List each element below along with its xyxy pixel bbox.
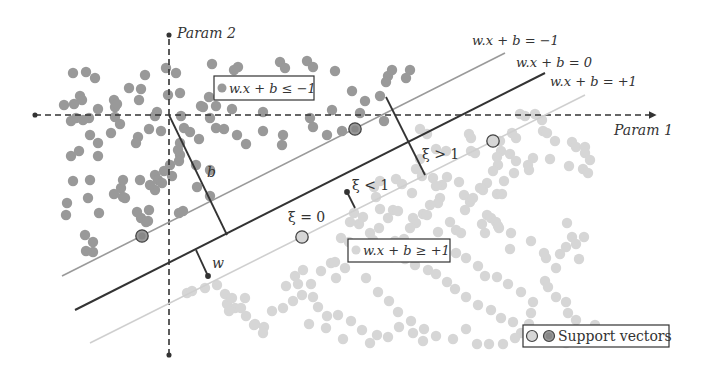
data-point bbox=[143, 216, 153, 226]
slack-gt1-label: ξ > 1 bbox=[422, 146, 459, 162]
data-point bbox=[473, 261, 483, 271]
data-point bbox=[372, 330, 382, 340]
data-point bbox=[150, 111, 160, 121]
data-point bbox=[494, 223, 504, 233]
data-point bbox=[431, 331, 441, 341]
data-point bbox=[308, 292, 318, 302]
data-point bbox=[250, 319, 260, 329]
data-point bbox=[278, 303, 288, 313]
data-point bbox=[486, 305, 496, 315]
data-point bbox=[81, 246, 91, 256]
data-point bbox=[75, 91, 85, 101]
data-point bbox=[475, 183, 485, 193]
data-point bbox=[227, 293, 237, 303]
data-point bbox=[118, 192, 128, 202]
data-point bbox=[78, 115, 88, 125]
data-point bbox=[373, 287, 383, 297]
data-point bbox=[331, 273, 341, 283]
data-point bbox=[306, 279, 316, 289]
legend-label: Support vectors bbox=[558, 328, 672, 344]
data-point bbox=[448, 334, 458, 344]
data-point bbox=[93, 151, 103, 161]
positive-class-box: w.x + b ≥ +1 bbox=[348, 239, 450, 262]
data-point bbox=[442, 277, 452, 287]
data-point bbox=[322, 130, 332, 140]
data-point bbox=[140, 70, 150, 80]
negative-class-label: w.x + b ≤ −1 bbox=[229, 81, 316, 96]
data-point bbox=[387, 65, 397, 75]
data-point bbox=[333, 310, 343, 320]
data-point bbox=[229, 65, 239, 75]
data-point bbox=[118, 175, 128, 185]
data-point bbox=[267, 306, 277, 316]
data-point bbox=[551, 292, 561, 302]
weight-normal-vector bbox=[196, 250, 208, 276]
data-point bbox=[224, 306, 234, 316]
data-point bbox=[330, 257, 340, 267]
data-point bbox=[316, 266, 326, 276]
data-point bbox=[62, 198, 72, 208]
data-point bbox=[330, 66, 340, 76]
data-point bbox=[508, 317, 518, 327]
data-point bbox=[541, 253, 551, 263]
data-point bbox=[308, 122, 318, 132]
slack-eq0-label: ξ = 0 bbox=[288, 209, 325, 225]
data-point bbox=[461, 253, 471, 263]
data-point bbox=[528, 297, 538, 307]
data-point bbox=[165, 160, 175, 170]
data-point bbox=[466, 133, 476, 143]
data-point bbox=[383, 213, 393, 223]
data-point bbox=[461, 324, 471, 334]
data-point bbox=[418, 336, 428, 346]
data-point bbox=[74, 146, 84, 156]
data-point bbox=[106, 128, 116, 138]
data-point bbox=[280, 63, 290, 73]
data-point bbox=[258, 126, 268, 136]
data-point bbox=[524, 165, 534, 175]
negative-class-box: w.x + b ≤ −1 bbox=[214, 76, 316, 100]
data-point bbox=[175, 88, 185, 98]
data-point bbox=[241, 139, 251, 149]
data-point bbox=[419, 324, 429, 334]
data-point bbox=[461, 292, 471, 302]
data-point bbox=[442, 172, 452, 182]
data-point bbox=[360, 96, 370, 106]
data-point bbox=[308, 62, 318, 72]
data-point bbox=[144, 205, 154, 215]
data-point bbox=[473, 300, 483, 310]
weight-label: w bbox=[212, 255, 224, 271]
data-point bbox=[136, 84, 146, 94]
data-point bbox=[563, 308, 573, 318]
data-point bbox=[393, 206, 403, 216]
data-point bbox=[59, 100, 69, 110]
data-point bbox=[506, 228, 516, 238]
data-point bbox=[526, 308, 536, 318]
data-point bbox=[232, 130, 242, 140]
data-point bbox=[520, 111, 530, 121]
data-point bbox=[450, 284, 460, 294]
data-point bbox=[433, 227, 443, 237]
data-point bbox=[401, 73, 411, 83]
data-point bbox=[322, 311, 332, 321]
data-point bbox=[94, 208, 104, 218]
legend-positive-sv-icon bbox=[527, 331, 538, 342]
data-point bbox=[511, 133, 521, 143]
data-point bbox=[361, 273, 371, 283]
data-point bbox=[313, 302, 323, 312]
data-point bbox=[145, 180, 155, 190]
data-point bbox=[240, 293, 250, 303]
data-point bbox=[381, 77, 391, 87]
data-point bbox=[163, 90, 173, 100]
data-point bbox=[258, 328, 268, 338]
data-point bbox=[338, 334, 348, 344]
data-point bbox=[340, 263, 350, 273]
data-point bbox=[196, 101, 206, 111]
data-point bbox=[526, 236, 536, 246]
data-point bbox=[278, 130, 288, 140]
data-point bbox=[509, 168, 519, 178]
data-point bbox=[358, 212, 368, 222]
data-point bbox=[542, 128, 552, 138]
data-point bbox=[543, 282, 553, 292]
data-point bbox=[80, 230, 90, 240]
data-point bbox=[375, 204, 385, 214]
